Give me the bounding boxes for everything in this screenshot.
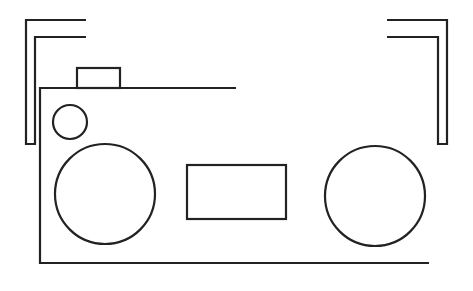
display-panel bbox=[187, 165, 286, 219]
left-speaker bbox=[55, 144, 155, 244]
small-knob bbox=[53, 105, 87, 139]
body-outline bbox=[40, 88, 429, 263]
handle-button bbox=[77, 68, 120, 88]
boombox-diagram bbox=[0, 0, 473, 291]
right-bracket bbox=[387, 20, 447, 144]
right-speaker bbox=[325, 146, 425, 246]
